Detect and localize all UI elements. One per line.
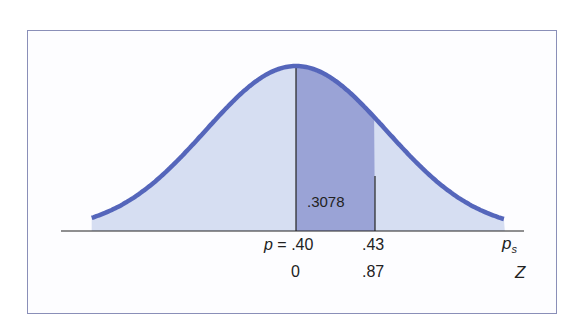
z-axis-label: Z xyxy=(515,263,525,283)
p-center-label: p = .40 xyxy=(264,236,313,254)
ps-axis-label: ps xyxy=(502,234,517,255)
p-value: = .40 xyxy=(273,236,313,253)
p-marker-label: .43 xyxy=(362,236,384,254)
normal-curve-plot xyxy=(0,0,573,327)
p-symbol: p xyxy=(264,236,273,253)
z-marker-label: .87 xyxy=(362,263,384,281)
ps-sub: s xyxy=(511,243,517,255)
z-zero-label: 0 xyxy=(291,263,300,281)
area-value-label: .3078 xyxy=(307,193,345,210)
